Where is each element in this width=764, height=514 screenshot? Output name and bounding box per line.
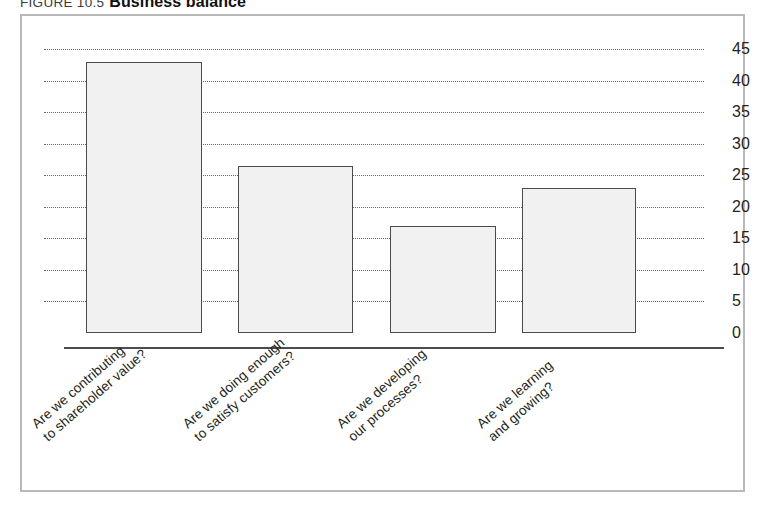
- figure-frame: 051015202530354045 Are we contributingto…: [20, 14, 745, 492]
- figure-caption: FIGURE 10.5Business balance: [20, 0, 246, 13]
- category-label-1: Are we contributingto shareholder value?: [29, 333, 150, 444]
- figure-number: FIGURE 10.5: [20, 0, 104, 10]
- bar-2[interactable]: [238, 166, 353, 333]
- bar-1[interactable]: [86, 62, 202, 333]
- y-tick-label-35: 35: [732, 104, 764, 120]
- category-label-4: Are we learningand growing?: [474, 357, 568, 444]
- y-tick-label-10: 10: [732, 262, 764, 278]
- y-tick-label-0: 0: [732, 325, 764, 341]
- y-tick-label-30: 30: [732, 136, 764, 152]
- y-tick-label-5: 5: [732, 293, 764, 309]
- y-tick-label-15: 15: [732, 230, 764, 246]
- gridline-45: [44, 49, 704, 50]
- bar-4[interactable]: [522, 188, 636, 333]
- category-label-3: Are we developingour processes?: [334, 346, 441, 445]
- bar-3[interactable]: [390, 226, 496, 333]
- figure-title: Business balance: [109, 0, 246, 10]
- y-tick-label-25: 25: [732, 167, 764, 183]
- y-tick-label-40: 40: [732, 73, 764, 89]
- y-tick-label-45: 45: [732, 41, 764, 57]
- x-axis-baseline: [64, 347, 724, 349]
- category-label-2: Are we doing enoughto satisfy customers?: [180, 335, 299, 445]
- y-tick-label-20: 20: [732, 199, 764, 215]
